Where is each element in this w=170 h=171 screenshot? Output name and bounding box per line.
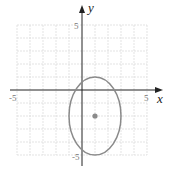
coordinate-plane: x y -5 5 5 -5	[0, 0, 170, 171]
x-axis-label: x	[156, 91, 163, 106]
ellipse-center-point	[92, 113, 97, 118]
x-tick-min: -5	[9, 93, 17, 103]
x-axis	[10, 87, 163, 93]
y-tick-min: -5	[72, 152, 80, 162]
y-tick-max: 5	[74, 21, 79, 31]
y-axis-arrow-icon	[79, 5, 85, 13]
y-axis-label: y	[86, 0, 94, 15]
x-tick-max: 5	[144, 93, 149, 103]
